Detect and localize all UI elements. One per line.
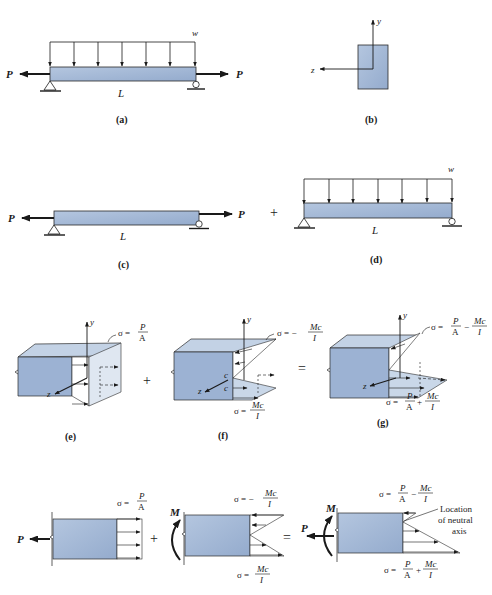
svg-text:σ =: σ = (379, 489, 391, 499)
force-label: P (301, 522, 308, 534)
axis-label-y: y (246, 314, 251, 324)
svg-text:−: − (464, 322, 469, 332)
moment-label: M (325, 502, 337, 514)
stress-formula-bottom: σ = P A + Mc I (384, 559, 438, 580)
caption-b: (b) (365, 114, 377, 126)
pin-support-icon (44, 225, 65, 235)
panel-h2: M σ = − Mc I σ = Mc I (169, 488, 284, 585)
axis-label-y: y (89, 317, 94, 327)
distributed-load-arrows (304, 179, 452, 204)
svg-text:P: P (404, 559, 411, 569)
stress-formula-top: σ = − Mc I (277, 322, 323, 343)
svg-text:σ =: σ = (234, 406, 246, 416)
svg-text:σ =: σ = (431, 322, 443, 332)
panel-d: w L (d) (294, 164, 462, 266)
panel-e: y z σ = P A (e) (15, 317, 148, 443)
svg-text:Mc: Mc (419, 483, 432, 493)
svg-text:Mc: Mc (426, 391, 439, 401)
panel-a: w P P L (a) (6, 28, 243, 126)
panel-b: y z (b) (310, 16, 388, 126)
svg-text:I: I (430, 402, 435, 412)
svg-text:Location: Location (440, 504, 472, 514)
axis-label-z: z (362, 381, 367, 391)
svg-text:I: I (312, 333, 317, 343)
axis-label-z: z (46, 389, 51, 399)
beam-segment (185, 515, 250, 556)
svg-text:I: I (267, 499, 272, 509)
roller-support-icon (187, 81, 205, 89)
svg-text:Mc: Mc (256, 564, 269, 574)
panel-g: y z σ = P A − Mc I σ = P A + Mc I (g) (327, 310, 487, 429)
svg-text:P: P (138, 491, 145, 501)
moment-arrow-icon (172, 520, 180, 560)
svg-text:P: P (452, 316, 459, 326)
svg-text:A: A (399, 494, 406, 504)
roller-support-icon (442, 218, 462, 226)
beam (54, 211, 199, 225)
svg-text:σ = −: σ = − (277, 328, 297, 338)
svg-text:−: − (411, 489, 416, 499)
force-label-right: P (236, 68, 243, 80)
svg-text:Mc: Mc (424, 559, 437, 569)
stress-formula-bottom: σ = Mc I (237, 564, 270, 585)
caption-c: (c) (118, 259, 129, 271)
svg-text:P: P (406, 391, 413, 401)
svg-text:of neutral: of neutral (438, 515, 473, 525)
length-label: L (371, 224, 378, 236)
pin-support-icon (294, 218, 315, 228)
caption-g: (g) (377, 417, 389, 429)
load-label-w: w (448, 164, 454, 174)
equals-sign: = (283, 530, 291, 545)
distributed-load-arrows (50, 42, 195, 66)
svg-text:axis: axis (452, 526, 467, 536)
svg-text:P: P (139, 322, 146, 332)
svg-text:A: A (139, 333, 146, 343)
equals-sign: = (298, 361, 306, 376)
stress-formula-top: σ = − Mc I (234, 488, 278, 509)
svg-text:Mc: Mc (309, 322, 322, 332)
svg-text:A: A (404, 570, 411, 580)
svg-text:I: I (255, 411, 260, 421)
panel-f: y z c c σ = − Mc I σ = Mc I (f) (171, 314, 323, 442)
caption-a: (a) (116, 114, 128, 126)
svg-text:σ =: σ = (237, 570, 249, 580)
svg-text:I: I (477, 327, 482, 337)
force-label: P (17, 533, 24, 545)
axis-label-y: y (376, 16, 381, 26)
svg-text:σ =: σ = (117, 498, 129, 508)
force-label-left: P (8, 212, 15, 224)
panel-h1: P σ = P A (17, 491, 147, 566)
beam-segment (53, 519, 117, 559)
beam (304, 203, 452, 218)
svg-text:I: I (259, 575, 264, 585)
axis-label-z: z (197, 386, 202, 396)
c-label-top: c (224, 370, 228, 380)
c-label-bottom: c (224, 383, 228, 393)
axis-label-y: y (402, 310, 407, 320)
svg-text:+: + (416, 565, 421, 575)
plus-sign: + (150, 531, 158, 546)
caption-e: (e) (65, 431, 76, 443)
stress-formula-bottom: σ = Mc I (234, 400, 265, 421)
stress-formula: σ = P A (118, 322, 148, 343)
length-label: L (117, 87, 124, 99)
force-label-left: P (6, 68, 13, 80)
svg-text:A: A (452, 327, 459, 337)
svg-text:I: I (423, 494, 428, 504)
svg-text:P: P (399, 483, 406, 493)
plus-sign: + (143, 373, 151, 388)
svg-text:I: I (428, 570, 433, 580)
svg-text:σ =: σ = (384, 565, 396, 575)
stress-formula-top: σ = P A − Mc I (431, 316, 487, 337)
panel-h3: M P σ = P A − Mc I σ = P A + Mc I Locati… (301, 483, 473, 580)
force-label-right: P (238, 208, 245, 220)
stress-formula-top: σ = P A − Mc I (379, 483, 433, 504)
axis-label-z: z (310, 65, 315, 75)
beam-segment (338, 513, 403, 553)
moment-label: M (169, 506, 181, 518)
combined-loading-diagram: w P P L (a) y z (b) P P (0, 0, 492, 595)
svg-text:Mc: Mc (251, 400, 264, 410)
caption-f: (f) (218, 430, 228, 442)
svg-text:A: A (406, 402, 413, 412)
svg-text:+: + (417, 397, 422, 407)
